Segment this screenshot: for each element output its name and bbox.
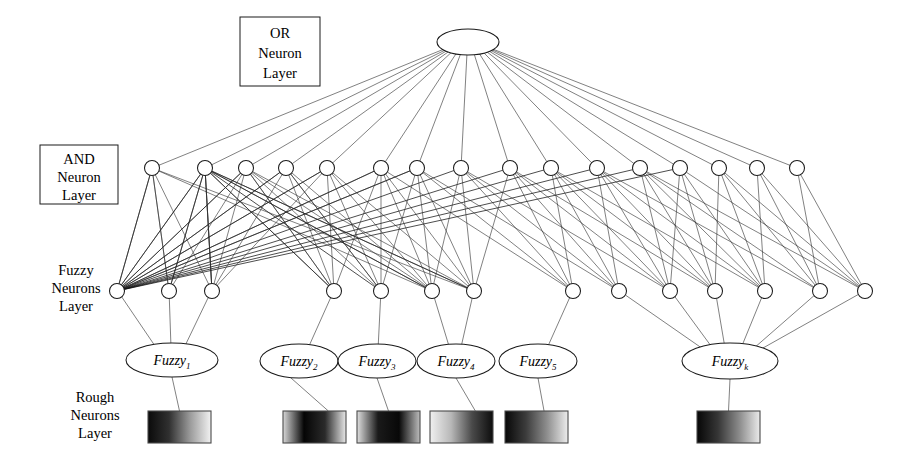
fuzzy-neuron-11[interactable] <box>708 284 723 299</box>
connection-edge <box>558 172 759 288</box>
rough-neuron-2[interactable] <box>283 411 346 443</box>
connection-edge <box>169 298 171 344</box>
fuzzy-group-3[interactable]: Fuzzy3 <box>338 344 416 378</box>
and-neuron-8[interactable] <box>454 161 469 176</box>
fuzzy-neuron-12[interactable] <box>758 284 773 299</box>
connection-edge <box>516 172 708 287</box>
connection-edge <box>461 54 467 160</box>
connection-edge <box>423 173 567 287</box>
and-neuron-7[interactable] <box>410 161 425 176</box>
connection-edge <box>757 175 764 283</box>
connection-edge <box>538 378 544 411</box>
and-neuron-6[interactable] <box>374 161 389 176</box>
fuzzy-layer-label: Fuzzy Neurons Layer <box>51 262 100 314</box>
and-neuron-11[interactable] <box>590 161 605 176</box>
connection-edge <box>686 172 859 287</box>
or-neuron-layer-nodes <box>437 29 499 55</box>
network-svg: Fuzzy1Fuzzy2Fuzzy3Fuzzy4Fuzzy5Fuzzyk OR … <box>0 0 909 473</box>
and-neuron-9[interactable] <box>503 161 518 176</box>
edges-group-to-rough <box>172 377 730 411</box>
and-neuron-3[interactable] <box>239 161 254 176</box>
connection-edge <box>119 175 150 284</box>
connection-edge <box>548 298 570 347</box>
and-neuron-14[interactable] <box>712 161 727 176</box>
connection-edge <box>122 297 157 348</box>
rough-neuron-3[interactable] <box>357 411 420 443</box>
connection-edge <box>729 379 731 411</box>
connection-edge <box>418 175 431 283</box>
fuzzy-neuron-7[interactable] <box>467 284 482 299</box>
and-neuron-12[interactable] <box>633 161 648 176</box>
rough-neuron-6[interactable] <box>697 411 760 443</box>
edges-and-to-fuzzy <box>119 170 861 290</box>
fuzzy-neuron-6[interactable] <box>425 284 440 299</box>
fuzzy-group-5[interactable]: Fuzzy5 <box>499 344 577 378</box>
connection-edge <box>647 172 859 288</box>
fuzzy-neuron-5[interactable] <box>374 284 389 299</box>
connection-edge <box>476 175 508 284</box>
connection-edge <box>742 298 762 346</box>
connection-edge <box>485 48 674 164</box>
fuzzy-neuron-14[interactable] <box>858 284 873 299</box>
and-layer-label: AND Neuron Layer <box>40 145 118 204</box>
and-layer-label-line2: Neuron <box>57 169 101 185</box>
connection-edge <box>171 175 203 284</box>
and-neuron-2[interactable] <box>198 161 213 176</box>
connection-edge <box>467 173 613 287</box>
connection-edge <box>602 173 710 285</box>
connection-edge <box>486 47 751 165</box>
connection-edge <box>291 378 328 411</box>
rough-layer-label-line1: Rough <box>76 389 115 405</box>
connection-edge <box>516 173 664 287</box>
rough-neuron-4[interactable] <box>430 411 493 443</box>
connection-edge <box>210 173 328 286</box>
connection-edge <box>675 297 713 349</box>
fuzzy-group-4[interactable]: Fuzzy4 <box>417 344 495 378</box>
connection-edge <box>555 175 616 285</box>
fuzzy-group-1[interactable]: Fuzzy1 <box>126 343 218 377</box>
fuzzy-neuron-8[interactable] <box>566 284 581 299</box>
fuzzy-layer-label-line1: Fuzzy <box>58 262 94 278</box>
fuzzy-neuron-13[interactable] <box>813 284 828 299</box>
fuzzy-neuron-2[interactable] <box>162 284 177 299</box>
connection-edge <box>172 377 180 411</box>
connection-edge <box>337 175 379 284</box>
and-neuron-5[interactable] <box>320 161 335 176</box>
fuzzy-group-2[interactable]: Fuzzy2 <box>260 344 338 378</box>
fuzzy-group-k[interactable]: Fuzzyk <box>682 343 778 379</box>
and-neuron-4[interactable] <box>279 161 294 176</box>
connection-edge <box>722 175 763 284</box>
rough-neuron-5[interactable] <box>505 411 568 443</box>
connection-edge <box>212 172 426 288</box>
fuzzy-neuron-4[interactable] <box>327 284 342 299</box>
connection-edge <box>762 174 860 286</box>
fuzzy-neuron-1[interactable] <box>110 284 125 299</box>
fuzzy-layer-label-line2: Neurons <box>51 280 100 296</box>
connection-edge <box>292 173 427 286</box>
and-neuron-13[interactable] <box>673 161 688 176</box>
fuzzy-neuron-3[interactable] <box>205 284 220 299</box>
and-neuron-layer-nodes <box>145 161 805 176</box>
network-diagram: Fuzzy1Fuzzy2Fuzzy3Fuzzy4Fuzzy5Fuzzyk OR … <box>0 0 909 473</box>
connection-edge <box>515 174 614 286</box>
fuzzy-neuron-9[interactable] <box>612 284 627 299</box>
fuzzy-neuron-10[interactable] <box>663 284 678 299</box>
rough-layer-label-line3: Layer <box>78 425 112 441</box>
or-neuron[interactable] <box>437 29 499 55</box>
and-neuron-15[interactable] <box>750 161 765 176</box>
connection-edge <box>625 295 707 352</box>
and-layer-label-line1: AND <box>63 151 94 167</box>
connection-edge <box>552 175 571 283</box>
connection-edge <box>467 172 663 287</box>
connection-edge <box>725 173 860 286</box>
connection-edge <box>466 174 568 286</box>
connection-edge <box>434 298 449 346</box>
rough-neuron-1[interactable] <box>148 411 211 443</box>
connection-edge <box>185 297 209 346</box>
and-neuron-10[interactable] <box>544 161 559 176</box>
connection-edge <box>214 175 244 284</box>
and-neuron-1[interactable] <box>145 161 160 176</box>
connection-edge <box>461 298 472 346</box>
and-neuron-16[interactable] <box>790 161 805 176</box>
connection-edge <box>124 170 632 290</box>
